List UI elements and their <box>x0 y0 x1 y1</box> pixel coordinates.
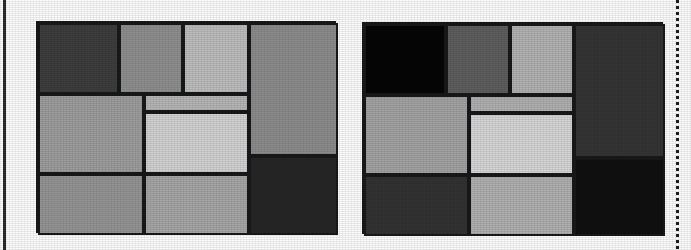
treemap-cell-l9 <box>38 174 144 235</box>
treemap-cell-r2 <box>446 24 510 95</box>
treemap-cell-l1 <box>38 23 119 94</box>
treemap-cell-l3 <box>183 23 249 94</box>
right-margin-rule <box>676 0 679 250</box>
treemap-panel-right <box>362 22 663 234</box>
treemap-cell-l6 <box>144 94 249 112</box>
treemap-cell-r5 <box>364 95 469 175</box>
treemap-cell-r8 <box>574 158 665 236</box>
treemap-cell-r3 <box>510 24 574 95</box>
treemap-cell-r4 <box>574 24 665 158</box>
treemap-cell-l8 <box>249 156 338 235</box>
treemap-cell-r7 <box>469 113 574 175</box>
figure-page <box>0 0 691 250</box>
left-margin-rule <box>3 0 6 250</box>
treemap-cell-l7 <box>144 112 249 174</box>
treemap-cell-r1 <box>364 24 446 95</box>
treemap-panel-left <box>36 21 336 233</box>
treemap-cell-l5 <box>38 94 144 174</box>
treemap-cell-r6 <box>469 95 574 113</box>
treemap-cell-l2 <box>119 23 183 94</box>
treemap-cell-l10 <box>144 174 249 235</box>
treemap-cell-l4 <box>249 23 338 156</box>
treemap-cell-r9 <box>364 175 469 236</box>
treemap-cell-r10 <box>469 175 574 236</box>
